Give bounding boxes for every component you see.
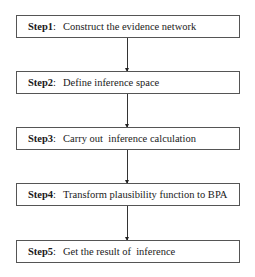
step-text: Define inference space <box>63 77 159 88</box>
step-separator: : <box>53 246 56 257</box>
step-text: Construct the evidence network <box>63 21 196 32</box>
step-separator: : <box>53 133 56 144</box>
step-text: Carry out inference calculation <box>63 133 196 144</box>
step-separator: : <box>53 189 56 200</box>
arrow-3-to-4 <box>127 150 128 183</box>
flowchart: Step1: Construct the evidence network St… <box>0 0 255 277</box>
step-label: Step3 <box>28 133 53 144</box>
step-box-4: Step4: Transform plausibility function t… <box>16 183 240 206</box>
step-box-2: Step2: Define inference space <box>16 71 240 94</box>
step-text: Get the result of inference <box>63 246 175 257</box>
arrow-2-to-3 <box>127 94 128 127</box>
arrow-1-to-2 <box>127 38 128 71</box>
step-label: Step4 <box>28 189 53 200</box>
step-separator: : <box>53 77 56 88</box>
step-label: Step2 <box>28 77 53 88</box>
step-separator: : <box>53 21 56 32</box>
step-box-5: Step5: Get the result of inference <box>16 240 240 263</box>
step-box-1: Step1: Construct the evidence network <box>16 15 240 38</box>
arrow-4-to-5 <box>127 206 128 240</box>
step-label: Step1 <box>28 21 53 32</box>
step-box-3: Step3: Carry out inference calculation <box>16 127 240 150</box>
step-label: Step5 <box>28 246 53 257</box>
step-text: Transform plausibility function to BPA <box>63 189 227 200</box>
